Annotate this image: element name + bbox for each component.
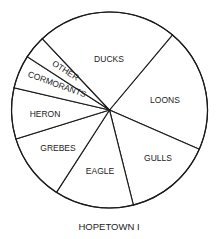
slice-label-eagle: EAGLE — [86, 166, 115, 176]
pie-chart: LOONSGULLSEAGLEGREBESHERONCORMORANTSOTHE… — [0, 0, 218, 239]
slice-label-loons: LOONS — [150, 95, 180, 105]
slice-label-heron: HERON — [30, 109, 61, 119]
slice-label-grebes: GREBES — [40, 143, 76, 153]
chart-title: HOPETOWN I — [78, 221, 139, 232]
slice-label-ducks: DUCKS — [94, 54, 124, 64]
slice-label-gulls: GULLS — [144, 153, 172, 163]
